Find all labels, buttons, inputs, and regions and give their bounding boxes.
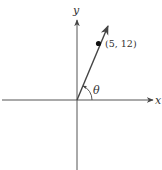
- angle-label: θ: [93, 84, 100, 97]
- point-label: (5, 12): [105, 38, 137, 49]
- angle-arc: [83, 86, 92, 100]
- point-marker: [96, 41, 101, 46]
- x-axis-label: x: [155, 94, 162, 107]
- y-axis-label: y: [72, 4, 80, 17]
- coordinate-diagram: (5, 12) θ x y: [0, 0, 162, 170]
